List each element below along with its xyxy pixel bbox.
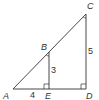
label-point-A: A: [2, 91, 9, 100]
label-length-AE: 4: [30, 90, 35, 100]
right-angle-mark-E: [44, 84, 49, 89]
right-angle-mark-D: [81, 84, 86, 89]
segment-AC: [13, 14, 86, 89]
label-point-C: C: [87, 1, 94, 11]
label-point-B: B: [41, 42, 47, 52]
label-length-BE: 3: [51, 65, 56, 75]
label-length-CD: 5: [88, 46, 93, 56]
triangle-diagram: A B C D E 4 3 5: [0, 0, 99, 100]
label-point-E: E: [45, 91, 52, 100]
label-point-D: D: [86, 91, 93, 100]
